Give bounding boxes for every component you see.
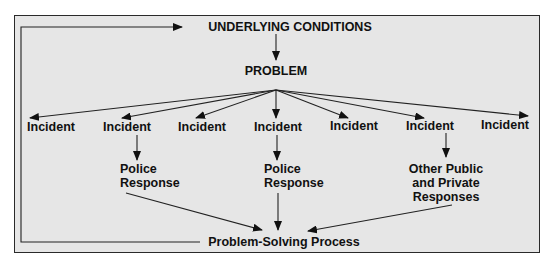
other-responses-node: Other Public and Private Responses — [409, 162, 483, 204]
incident-node-6: Incident — [406, 119, 454, 133]
problem-node: PROBLEM — [245, 64, 308, 78]
incident-node-7: Incident — [481, 118, 529, 132]
problem-solving-process-node: Problem-Solving Process — [208, 235, 359, 249]
underlying-conditions-node: UNDERLYING CONDITIONS — [208, 20, 371, 34]
incident-node-2: Incident — [103, 120, 151, 134]
incident-node-1: Incident — [27, 120, 75, 134]
response-line-1: Other Public — [409, 162, 483, 176]
incident-node-4: Incident — [254, 120, 302, 134]
response-line-2: and Private — [409, 176, 483, 190]
connector-arrows — [0, 0, 555, 272]
police-response-node-2: Police Response — [264, 162, 324, 190]
response-line-2: Response — [264, 176, 324, 190]
incident-node-3: Incident — [178, 120, 226, 134]
response-line-1: Police — [120, 162, 180, 176]
incident-node-5: Incident — [330, 119, 378, 133]
response-line-1: Police — [264, 162, 324, 176]
response-line-2: Response — [120, 176, 180, 190]
police-response-node-1: Police Response — [120, 162, 180, 190]
response-line-3: Responses — [409, 190, 483, 204]
